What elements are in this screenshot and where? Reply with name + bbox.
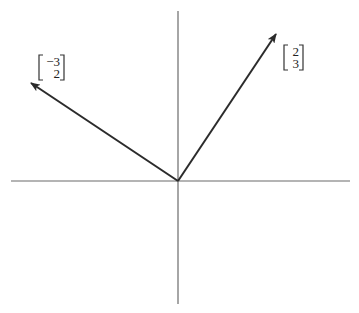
vector-component-y: 3	[293, 56, 300, 71]
vector-diagram: 2 3 −3 2	[0, 0, 359, 313]
vector-arrow-neg3-2	[31, 83, 178, 181]
vector-arrow-2-3	[178, 34, 276, 181]
vector-component-y: 2	[54, 66, 61, 81]
vector-label-2-3: 2 3	[284, 44, 303, 71]
right-bracket-icon	[60, 55, 64, 80]
vector-label-neg3-2: −3 2	[39, 54, 64, 81]
right-bracket-icon	[299, 45, 303, 70]
left-bracket-icon	[284, 45, 288, 70]
left-bracket-icon	[39, 55, 43, 80]
